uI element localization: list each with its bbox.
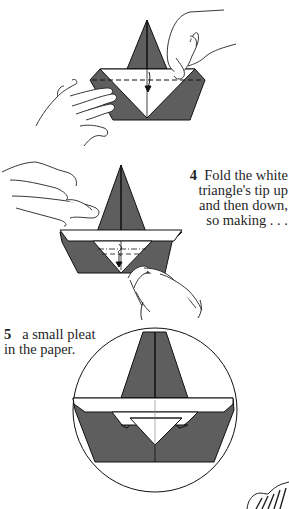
step-5-caption: 5 a small pleat in the paper. <box>4 327 114 357</box>
hand-left-top-icon <box>2 162 99 226</box>
step-4-line-2: triangle's tip up <box>160 183 288 198</box>
step-4-line-3: and then down, <box>160 198 288 213</box>
step-5-number: 5 <box>4 326 11 342</box>
step-4-number: 4 <box>190 167 197 183</box>
instruction-illustrations <box>0 0 289 509</box>
hand-right-bottom-icon <box>128 266 202 312</box>
corner-decoration-icon <box>247 482 289 509</box>
step-4-caption: 4 Fold the white triangle's tip up and t… <box>160 168 288 228</box>
step-5-line-1: 5 a small pleat <box>4 327 114 342</box>
step-3-fold-diagram <box>36 10 236 146</box>
step-4-line-4: so making . . . <box>160 213 288 228</box>
hand-right-top-icon <box>167 10 236 79</box>
hand-left-bottom-icon <box>36 79 117 146</box>
step-4-line-1: 4 Fold the white <box>160 168 288 183</box>
step-5-line-2: in the paper. <box>4 342 114 357</box>
